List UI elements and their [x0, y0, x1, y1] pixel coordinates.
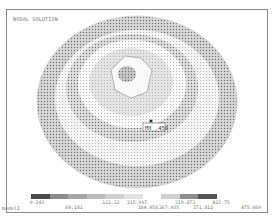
svg-text:MX .458: MX .458	[145, 125, 168, 131]
legend-label: 423.75	[212, 200, 229, 205]
legend-segment-9	[180, 194, 199, 199]
model-label: model1	[2, 205, 20, 211]
legend-label: 371.812	[193, 205, 213, 210]
legend-segment-7	[143, 194, 162, 199]
legend-segment-6	[124, 194, 143, 199]
legend-segment-2	[50, 194, 69, 199]
legend-label: 164.058	[138, 205, 158, 210]
contour-plot: MX .458	[7, 10, 267, 212]
legend-segment-8	[161, 194, 180, 199]
legend-label: 0.243	[30, 200, 44, 205]
legend-bar	[31, 194, 217, 199]
legend-segment-5	[105, 194, 124, 199]
legend-label: 60.181	[65, 205, 82, 210]
legend-segment-1	[31, 194, 50, 199]
legend-label: 267.935	[159, 205, 179, 210]
legend-segment-4	[87, 194, 106, 199]
sphere-mesh	[37, 16, 237, 188]
legend-segment-3	[68, 194, 87, 199]
legend-label: 475.669	[241, 205, 261, 210]
legend-label: 112.12	[102, 200, 119, 205]
graphics-window[interactable]: NODAL SOLUTION	[6, 9, 268, 213]
legend-label: 215.997	[127, 200, 147, 205]
legend-segment-10	[198, 194, 217, 199]
